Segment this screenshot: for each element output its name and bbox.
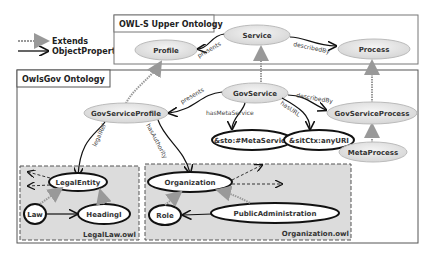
node-organization-label: Organization (165, 179, 216, 187)
node-any-uri-label: &sitCtx:anyURI (289, 137, 349, 145)
upper-ontology-title: OWL-S Upper Ontology (119, 20, 223, 29)
node-profile-label: Profile (153, 47, 179, 55)
node-legal-entity-label: LegalEntity (56, 179, 101, 187)
node-meta-service-label: &sto:#MetaService (214, 137, 290, 145)
edge-has-meta-service-label: hasMetaService (206, 109, 254, 116)
node-role-label: Role (156, 212, 174, 220)
node-gov-service-label: GovService (233, 90, 277, 98)
gov-ontology-title: OwlsGov Ontology (22, 75, 106, 84)
node-gov-service-profile-label: GovServiceProfile (91, 110, 161, 118)
node-process-label: Process (359, 46, 390, 54)
node-heading-label: HeadingI (86, 211, 121, 219)
upper-ontology-box: OWL-S Upper Ontology Profile Service Pro… (114, 15, 418, 64)
node-public-administration-label: PublicAdministration (234, 210, 317, 218)
legend-object-property-label: ObjectProperty (52, 47, 121, 56)
legal-law-module-label: LegalLaw.owl (83, 231, 136, 239)
ontology-diagram: Extends ObjectProperty OWL-S Upper Ontol… (0, 0, 433, 256)
node-service-label: Service (242, 32, 271, 40)
node-law-label: Law (27, 211, 43, 219)
node-meta-process-label: MetaProcess (348, 149, 398, 157)
legend-extends-label: Extends (52, 37, 88, 46)
organization-module-label: Organization.owl (282, 230, 349, 238)
node-gov-service-process-label: GovServiceProcess (335, 110, 410, 118)
legend: Extends ObjectProperty (18, 37, 121, 56)
